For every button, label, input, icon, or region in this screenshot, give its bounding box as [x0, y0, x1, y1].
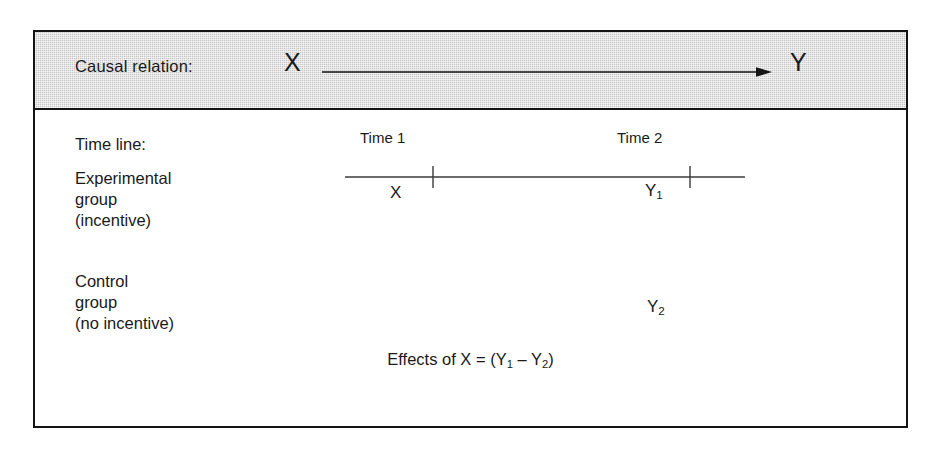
time-line-axis [345, 160, 745, 188]
time-2-tick-label: Time 2 [617, 130, 662, 145]
experimental-group-time1-symbol: X [390, 184, 401, 201]
figure-container: Causal relation: X Y Time line: Time 1 T… [33, 30, 908, 428]
effects-formula-middle: – Y [513, 350, 542, 368]
time-line-row-label: Time line: [75, 136, 146, 153]
control-group-label-line-3: (no incentive) [75, 315, 174, 332]
time-1-tick-label: Time 1 [360, 130, 405, 145]
effects-formula: Effects of X = (Y1 – Y2) [35, 351, 906, 371]
control-group-time2-base: Y [647, 297, 658, 316]
causal-relation-label: Causal relation: [75, 58, 193, 75]
control-group-label-line-2: group [75, 294, 117, 311]
experimental-group-time2-symbol: Y1 [645, 182, 663, 202]
experimental-group-label-line-3: (incentive) [75, 212, 151, 229]
causal-arrow-right-icon [322, 64, 772, 80]
causal-relation-band: Causal relation: X Y [35, 32, 906, 110]
control-group-time2-symbol: Y2 [647, 298, 665, 318]
experimental-group-label-line-2: group [75, 191, 117, 208]
experimental-group-label-line-1: Experimental [75, 170, 171, 187]
experimental-group-time2-subscript: 1 [656, 189, 662, 201]
cause-symbol-x: X [284, 50, 301, 75]
effect-symbol-y: Y [790, 50, 807, 75]
control-group-label-line-1: Control [75, 273, 128, 290]
effects-formula-prefix: Effects of X = (Y [387, 350, 506, 368]
control-group-time2-subscript: 2 [658, 305, 664, 317]
experimental-group-time2-base: Y [645, 181, 656, 200]
effects-formula-suffix: ) [548, 350, 554, 368]
